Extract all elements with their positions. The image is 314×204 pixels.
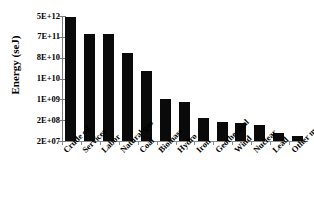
bar-chart: Energy (seJ) 5E+127E+118E+101E+101E+092E… xyxy=(0,0,314,204)
x-axis-tick-labels: Crude oilServicesLaborNatural gasCoalBio… xyxy=(0,0,314,204)
x-axis-tick-label: Iron xyxy=(195,137,213,155)
x-axis-tick-label: Other materials xyxy=(289,108,314,155)
